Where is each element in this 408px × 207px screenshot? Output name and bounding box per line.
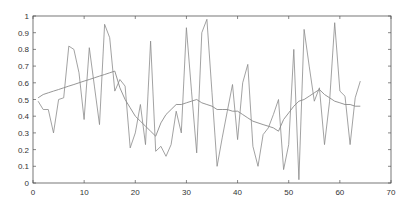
y-tick-label: 0.3 [18, 129, 30, 138]
y-tick-label: 0.9 [18, 29, 30, 38]
y-tick-label: 0.7 [18, 62, 30, 71]
y-tick-label: 1 [25, 12, 30, 21]
x-tick-label: 50 [284, 188, 293, 197]
x-tick-label: 70 [387, 188, 396, 197]
x-tick-label: 30 [182, 188, 191, 197]
x-tick-label: 20 [131, 188, 140, 197]
y-tick-label: 0 [25, 179, 30, 188]
y-tick-label: 0.4 [18, 112, 30, 121]
y-tick-label: 0.8 [18, 45, 30, 54]
x-tick-label: 60 [335, 188, 344, 197]
x-tick-label: 10 [80, 188, 89, 197]
x-tick-label: 40 [233, 188, 242, 197]
y-tick-label: 0.5 [18, 96, 30, 105]
y-tick-label: 0.1 [18, 162, 30, 171]
y-tick-label: 0.6 [18, 79, 30, 88]
plot-area [33, 16, 391, 183]
x-tick-label: 0 [31, 188, 36, 197]
line-chart: 00.10.20.30.40.50.60.70.80.91 0102030405… [0, 0, 408, 207]
y-tick-label: 0.2 [18, 146, 30, 155]
